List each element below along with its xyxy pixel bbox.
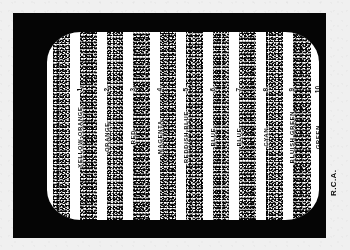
color-bar [213,32,229,220]
color-bar [239,32,256,220]
color-bar [293,32,311,220]
color-bar [266,32,283,220]
color-bar [53,32,70,220]
crt-screen: 1YELLOW-ORANGE2ORANGE3RED4MAGENTA5REDDIS… [47,32,319,220]
color-bar [160,32,176,220]
maker-credit-label: R.C.A. [329,170,338,196]
color-bar [186,32,203,220]
test-pattern-figure: 1YELLOW-ORANGE2ORANGE3RED4MAGENTA5REDDIS… [0,0,350,250]
color-bar-field [47,32,319,220]
color-bar [80,32,97,220]
color-bar [133,32,150,220]
television-bezel: 1YELLOW-ORANGE2ORANGE3RED4MAGENTA5REDDIS… [14,14,325,237]
color-bar [107,32,123,220]
